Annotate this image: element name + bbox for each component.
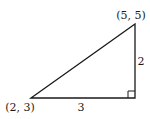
side-label-vertical: 2 bbox=[138, 55, 145, 68]
right-angle-marker bbox=[128, 91, 135, 98]
triangle-shape bbox=[31, 24, 135, 98]
vertex-label-left: (2, 3) bbox=[5, 101, 35, 114]
vertex-label-top: (5, 5) bbox=[116, 9, 146, 22]
side-label-horizontal: 3 bbox=[78, 101, 85, 114]
right-triangle-diagram: (5, 5) (2, 3) 3 2 bbox=[0, 0, 150, 119]
